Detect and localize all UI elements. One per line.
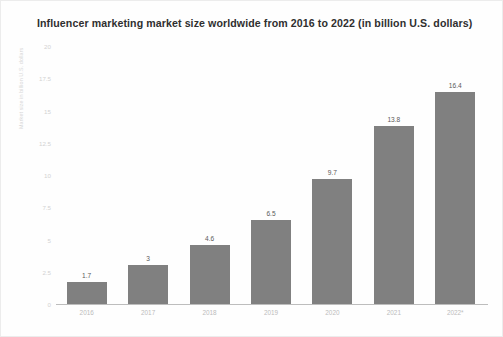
- bar-value-label: 1.7: [67, 272, 107, 279]
- bar-group[interactable]: 6.5: [251, 46, 291, 304]
- bar[interactable]: [312, 179, 352, 304]
- bar-value-label: 6.5: [251, 210, 291, 217]
- bar[interactable]: [190, 245, 230, 304]
- bar-series: 1.734.66.59.713.816.4: [56, 46, 486, 304]
- chart-page: Influencer marketing market size worldwi…: [0, 0, 503, 337]
- y-tick-label: 12.5: [11, 139, 51, 146]
- x-axis: 2016201720182019202020212022*: [56, 309, 486, 325]
- bar-value-label: 3: [128, 255, 168, 262]
- x-tick-label: 2019: [240, 309, 301, 316]
- bar-value-label: 16.4: [435, 82, 475, 89]
- y-tick-label: 20: [11, 43, 51, 50]
- bar-value-label: 13.8: [374, 116, 414, 123]
- bar-group[interactable]: 13.8: [374, 46, 414, 304]
- bar-group[interactable]: 9.7: [312, 46, 352, 304]
- y-axis-title: Market size in billion U.S. dollars: [18, 19, 24, 129]
- bar[interactable]: [67, 282, 107, 304]
- y-tick-label: 2.5: [11, 268, 51, 275]
- y-axis: 02.557.51012.51517.520: [1, 46, 51, 304]
- bar[interactable]: [251, 220, 291, 304]
- y-tick-label: 15: [11, 107, 51, 114]
- y-tick-label: 10: [11, 172, 51, 179]
- x-tick-label: 2021: [363, 309, 424, 316]
- bar[interactable]: [435, 92, 475, 304]
- x-tick-label: 2017: [117, 309, 178, 316]
- x-tick-label: 2020: [302, 309, 363, 316]
- bar-group[interactable]: 16.4: [435, 46, 475, 304]
- bar-value-label: 9.7: [312, 169, 352, 176]
- bar-value-label: 4.6: [190, 235, 230, 242]
- y-tick-label: 5: [11, 236, 51, 243]
- x-tick-label: 2022*: [425, 309, 486, 316]
- bar-group[interactable]: 3: [128, 46, 168, 304]
- x-axis-line: [56, 304, 488, 305]
- bar[interactable]: [374, 126, 414, 304]
- y-tick-label: 0: [11, 301, 51, 308]
- x-tick-label: 2018: [179, 309, 240, 316]
- bar[interactable]: [128, 265, 168, 304]
- x-tick-label: 2016: [56, 309, 117, 316]
- y-tick-label: 17.5: [11, 75, 51, 82]
- chart-title: Influencer marketing market size worldwi…: [37, 17, 477, 29]
- y-tick-label: 7.5: [11, 204, 51, 211]
- bar-group[interactable]: 1.7: [67, 46, 107, 304]
- bar-group[interactable]: 4.6: [190, 46, 230, 304]
